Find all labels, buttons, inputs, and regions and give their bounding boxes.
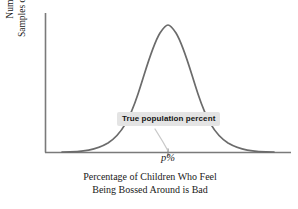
x-axis-tick-label-p: p% [148,152,188,163]
normal-curve-figure: Number of Samples of Children True popul… [0,0,298,209]
callout-leader-line [155,129,168,150]
x-axis-caption-line1: Percentage of Children Who Feel [40,170,260,183]
distribution-curve [62,25,274,152]
x-axis-caption: Percentage of Children Who Feel Being Bo… [40,170,260,196]
x-axis-caption-line2: Being Bossed Around is Bad [40,183,260,196]
y-axis-label-line1: Number of [5,0,17,54]
true-population-percent-callout: True population percent [117,112,220,126]
y-axis-label: Number of Samples of Children [5,0,31,54]
y-axis-label-line2: Samples of Children [17,0,29,54]
